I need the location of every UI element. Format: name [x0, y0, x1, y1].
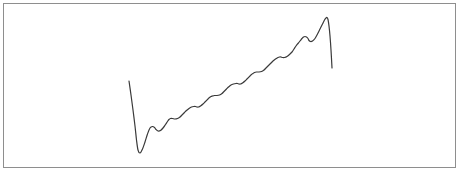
data-series-curve — [129, 17, 332, 153]
screenshot-root — [0, 0, 462, 175]
line-chart-svg — [0, 0, 462, 175]
chart-plot-area — [0, 0, 462, 175]
